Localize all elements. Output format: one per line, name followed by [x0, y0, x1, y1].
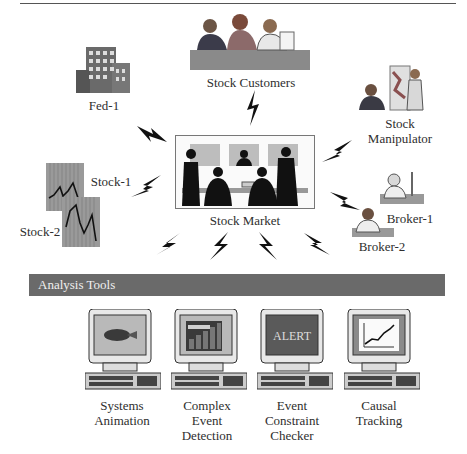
alert-text: ALERT: [273, 329, 312, 343]
stock-market-label: Stock Market: [195, 213, 295, 228]
fed-label: Fed-1: [82, 98, 126, 113]
stock1-label: Stock-1: [89, 174, 133, 189]
broker2-label: Broker-2: [354, 239, 410, 254]
tool-label-event-constraint-checker: Event Constraint Checker: [247, 398, 337, 443]
stock-customers-illustration: [185, 12, 315, 72]
lightning-bolt-icon: [302, 233, 332, 255]
lightning-bolt-icon: [137, 124, 167, 146]
tool-label-causal-tracking: Causal Tracking: [334, 398, 424, 428]
lightning-bolt-icon: [208, 232, 232, 260]
computer-icon-causal-tracking: [344, 309, 420, 391]
computer-icon-complex-event-detection: [171, 309, 247, 391]
computer-icon-systems-animation: [85, 309, 161, 391]
stock-manipulator-label-line2: Manipulator: [360, 131, 440, 146]
lightning-bolt-icon: [243, 90, 263, 126]
analysis-tools-bar: Analysis Tools: [29, 274, 445, 296]
lightning-bolt-icon: [330, 190, 360, 212]
top-rule: [20, 3, 456, 4]
lightning-bolt-icon: [255, 232, 279, 260]
stock-manipulator-label-line1: Stock: [365, 116, 435, 131]
broker1-illustration: [378, 170, 426, 206]
stock2-chart: [62, 197, 100, 247]
stock-market-box: [175, 135, 315, 209]
stock2-label: Stock-2: [18, 224, 62, 239]
lightning-bolt-icon: [154, 233, 184, 255]
building-icon: [76, 45, 130, 95]
stock-manipulator-illustration: [355, 60, 425, 112]
tool-label-complex-event-detection: Complex Event Detection: [162, 398, 252, 443]
lightning-bolt-icon: [131, 175, 161, 197]
tool-label-systems-animation: Systems Animation: [77, 398, 167, 428]
lightning-bolt-icon: [322, 140, 352, 162]
stock-market-illustration: [176, 136, 314, 208]
computer-icon-event-constraint-checker: ALERT: [257, 309, 333, 391]
stock-customers-label: Stock Customers: [196, 75, 306, 90]
